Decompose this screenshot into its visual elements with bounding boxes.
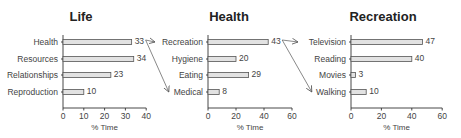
chart-panel-life: Life010203040% TimeHealth33Resources34Re… xyxy=(7,9,151,132)
bar xyxy=(208,57,236,62)
value-label: 43 xyxy=(271,36,281,46)
x-tick-label: 10 xyxy=(79,111,89,121)
x-tick-label: 40 xyxy=(407,111,417,121)
connector-arrow xyxy=(146,40,155,42)
chart-panel-recreation: Recreation0204060% TimeTelevision47Readi… xyxy=(309,9,448,132)
x-tick-label: 0 xyxy=(206,111,211,121)
x-tick-label: 0 xyxy=(61,111,66,121)
bar xyxy=(351,57,412,62)
category-label: Reading xyxy=(314,54,346,64)
value-label: 20 xyxy=(239,53,249,63)
x-axis-label: % Time xyxy=(383,123,410,132)
connector-arrows xyxy=(146,40,312,92)
value-label: 10 xyxy=(369,86,379,96)
x-tick-label: 40 xyxy=(259,111,269,121)
category-label: Eating xyxy=(179,70,203,80)
x-tick-label: 0 xyxy=(349,111,354,121)
value-label: 34 xyxy=(137,53,147,63)
bar xyxy=(351,90,366,95)
bar xyxy=(63,57,134,62)
x-tick-label: 20 xyxy=(377,111,387,121)
value-label: 40 xyxy=(415,53,425,63)
category-label: Reproduction xyxy=(7,87,58,97)
bar xyxy=(63,73,111,78)
value-label: 10 xyxy=(87,86,97,96)
category-label: Resources xyxy=(17,54,58,64)
connector-arrow xyxy=(282,40,312,92)
category-label: Relationships xyxy=(7,70,58,80)
category-label: Recreation xyxy=(162,37,203,47)
x-axis-label: % Time xyxy=(91,123,118,132)
category-label: Walking xyxy=(316,87,346,97)
category-label: Television xyxy=(309,37,347,47)
connector-arrow xyxy=(282,40,298,42)
chart-title: Recreation xyxy=(349,9,416,24)
x-tick-label: 40 xyxy=(141,111,151,121)
bar xyxy=(63,90,84,95)
category-label: Hygiene xyxy=(172,54,203,64)
x-tick-label: 60 xyxy=(287,111,297,121)
connector-arrow xyxy=(146,40,169,92)
chart-panel-health: Health0204060% TimeRecreation43Hygiene20… xyxy=(162,9,297,132)
chart-title: Health xyxy=(209,9,249,24)
value-label: 3 xyxy=(359,69,364,79)
hierarchical-bar-charts: Life010203040% TimeHealth33Resources34Re… xyxy=(0,0,461,138)
x-tick-label: 30 xyxy=(121,111,131,121)
category-label: Medical xyxy=(174,87,203,97)
x-axis-label: % Time xyxy=(237,123,264,132)
value-label: 23 xyxy=(114,69,124,79)
value-label: 29 xyxy=(252,69,262,79)
category-label: Movies xyxy=(319,70,346,80)
bar xyxy=(63,40,132,45)
x-tick-label: 60 xyxy=(437,111,447,121)
value-label: 8 xyxy=(222,86,227,96)
bar xyxy=(351,40,422,45)
x-tick-label: 20 xyxy=(100,111,110,121)
bar xyxy=(208,73,249,78)
value-label: 47 xyxy=(425,36,435,46)
category-label: Health xyxy=(33,37,58,47)
bar xyxy=(208,90,219,95)
bar xyxy=(351,73,356,78)
chart-title: Life xyxy=(69,9,92,24)
x-tick-label: 20 xyxy=(231,111,241,121)
value-label: 33 xyxy=(135,36,145,46)
bar xyxy=(208,40,268,45)
